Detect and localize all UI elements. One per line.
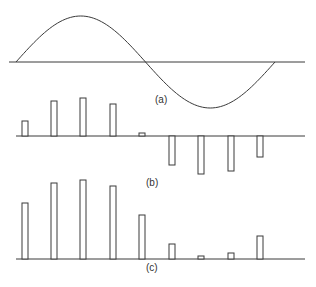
b-bar-9 — [257, 136, 263, 157]
c-bar-7 — [198, 256, 204, 259]
b-bar-7 — [198, 136, 204, 174]
b-bar-1 — [22, 121, 28, 136]
figure — [0, 0, 316, 287]
panel-b-signed-bars — [16, 98, 305, 174]
c-bar-3 — [80, 180, 86, 259]
c-bar-1 — [22, 203, 28, 259]
label-a: (a) — [155, 94, 167, 105]
b-bar-4 — [110, 104, 116, 136]
c-bar-6 — [169, 244, 175, 259]
b-bar-3 — [80, 98, 86, 136]
label-c: (c) — [146, 262, 158, 273]
panel-c-magnitude-bars — [16, 180, 305, 259]
b-bar-8 — [228, 136, 234, 171]
b-bar-2 — [51, 101, 57, 136]
c-bar-4 — [110, 186, 116, 259]
c-bar-8 — [228, 253, 234, 259]
b-bar-5 — [139, 133, 145, 136]
c-bar-5 — [139, 215, 145, 259]
c-bar-9 — [257, 236, 263, 259]
label-b: (b) — [146, 177, 158, 188]
b-bar-6 — [169, 136, 175, 165]
c-bar-2 — [51, 183, 57, 259]
